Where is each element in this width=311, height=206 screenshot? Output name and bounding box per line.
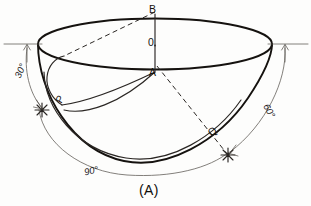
- hemisphere-diagram-figure: B 0 A P Q 30° 60° 90° (A): [0, 0, 311, 206]
- dashed-line-a-to-q: [157, 66, 228, 155]
- point-label-o: 0: [148, 37, 154, 48]
- arrow-up-left: [24, 44, 31, 62]
- point-label-b: B: [149, 4, 156, 15]
- arrowhead-30-end: [34, 100, 43, 109]
- figure-caption: (A): [139, 183, 159, 197]
- star-marker-left: [35, 103, 49, 117]
- bowl-inner-edge: [44, 72, 241, 159]
- diagram-canvas: [0, 0, 311, 206]
- point-label-a: A: [149, 67, 156, 78]
- star-marker-right: [221, 148, 235, 162]
- point-o-dot: [154, 45, 156, 47]
- arc-a-to-p: [62, 72, 155, 105]
- angle-arc-60: [230, 48, 285, 152]
